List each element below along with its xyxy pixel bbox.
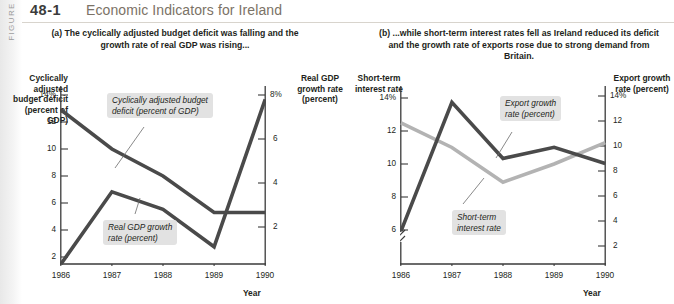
panel-b-x-tick-1: 1987 — [432, 270, 472, 280]
panel-b-x-tick-3: 1989 — [534, 270, 574, 280]
panel-b-right-ticks — [598, 96, 605, 246]
panel-a-left-tick-6: 2 — [24, 252, 56, 261]
panel-b-right-axis-title: Export growth rate (percent) — [612, 73, 672, 94]
panel-a-x-tick-2: 1988 — [143, 270, 183, 280]
panel-b-left-tick-0: 14% — [364, 93, 396, 102]
panel-a-x-tick-4: 1990 — [245, 270, 285, 280]
panel-b-left-tick-4: 6 — [364, 225, 396, 234]
panel-b-right-tick-6: 2 — [613, 241, 618, 250]
panel-a-x-tick-1: 1987 — [92, 270, 132, 280]
panel-b-right-tick-5: 4 — [613, 216, 618, 225]
panel-a-right-tick-3: 2 — [273, 222, 278, 231]
panel-b-left-tick-3: 8 — [364, 192, 396, 201]
panel-b-leader-export — [496, 132, 512, 158]
panel-b-right-tick-1: 12 — [613, 116, 622, 125]
panel-a-right-tick-0: 8% — [270, 90, 282, 99]
panel-a-x-tick-3: 1989 — [194, 270, 234, 280]
panel-a-left-ticks — [61, 95, 68, 257]
panel-b-callout-interest: Short-terminterest rate — [452, 210, 506, 235]
panel-b-left-tick-1: 12 — [364, 126, 396, 135]
panel-a-x-tick-0: 1986 — [41, 270, 81, 280]
panel-b-axis-break-icon — [400, 230, 405, 244]
figure-title: Economic Indicators for Ireland — [86, 2, 282, 18]
panel-a-left-tick-5: 4 — [24, 225, 56, 234]
panel-a-right-axis-title: Real GDP growth rate (percent) — [287, 73, 353, 105]
panel-a-left-tick-3: 8 — [24, 171, 56, 180]
panel-b-callout-export: Export growthrate (percent) — [500, 96, 561, 121]
panel-a-right-tick-1: 6 — [273, 134, 278, 143]
panel-a-right-tick-2: 4 — [273, 178, 278, 187]
series-cyclically-adjusted-budget-deficit — [61, 110, 265, 213]
figure-number: 48-1 — [30, 2, 61, 18]
panel-b-x-axis-title: Year — [583, 288, 601, 298]
panel-b-left-tick-2: 10 — [364, 159, 396, 168]
panel-b-right-tick-4: 6 — [613, 191, 618, 200]
panel-a-callout-deficit: Cyclically adjusted budgetdeficit (perce… — [107, 93, 213, 118]
header-divider — [22, 22, 674, 23]
panel-a-left-tick-2: 10 — [24, 144, 56, 153]
panel-b-right-tick-3: 8 — [613, 166, 618, 175]
panel-b-caption: (b) ...while short-term interest rates f… — [374, 28, 664, 63]
panel-b-right-tick-2: 10 — [613, 141, 622, 150]
panel-b-x-tick-4: 1990 — [585, 270, 625, 280]
panel-b-left-ticks — [401, 98, 408, 230]
panel-a-caption: (a) The cyclically adjusted budget defic… — [50, 28, 300, 51]
panel-a-callout-gdp: Real GDP growthrate (percent) — [103, 220, 177, 245]
panel-a-x-axis-title: Year — [243, 288, 261, 298]
panel-a-left-tick-4: 6 — [24, 198, 56, 207]
panel-b-x-tick-0: 1986 — [381, 270, 421, 280]
panel-b-leader-interest — [463, 178, 484, 204]
figure-page: FIGURE 48-1 Economic Indicators for Irel… — [0, 0, 674, 304]
figure-sidebar-label: FIGURE — [7, 0, 16, 48]
panel-b-x-tick-2: 1988 — [483, 270, 523, 280]
